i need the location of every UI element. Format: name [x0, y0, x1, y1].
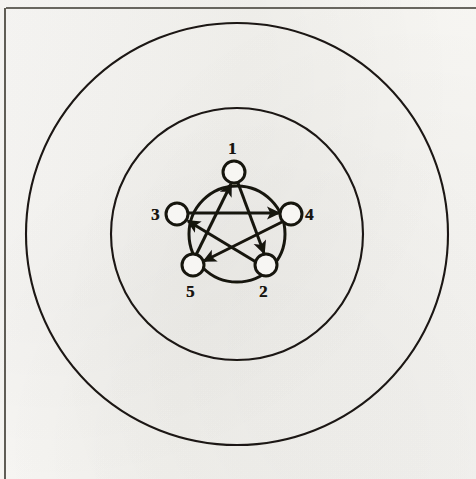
node-1-circle[interactable] — [223, 161, 245, 183]
pentagram-edges — [188, 183, 284, 262]
node-4-circle[interactable] — [280, 203, 302, 225]
pentagram-diagram — [0, 0, 476, 479]
node-5-circle[interactable] — [182, 254, 204, 276]
node-1-label: 1 — [228, 140, 237, 157]
pentagram-nodes — [166, 161, 302, 276]
concentric-circles — [26, 23, 448, 445]
node-2-circle[interactable] — [255, 254, 277, 276]
node-3-label: 3 — [151, 206, 160, 223]
middle-circle — [111, 108, 363, 360]
outer-circle — [26, 23, 448, 445]
node-2-label: 2 — [259, 283, 268, 300]
node-5-label: 5 — [186, 283, 195, 300]
node-3-circle[interactable] — [166, 203, 188, 225]
figure-page: 1 4 2 5 3 — [0, 0, 476, 479]
node-4-label: 4 — [305, 206, 314, 223]
